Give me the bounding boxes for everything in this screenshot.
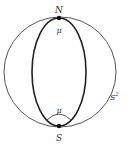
sphere-label-superscript: 2: [114, 91, 118, 97]
north-label: N: [54, 5, 64, 15]
north-angle-label: μ: [56, 26, 61, 35]
south-angle-label: μ: [56, 106, 61, 115]
south-label: S: [56, 133, 62, 143]
sphere-diagram: N μ μ S S2: [0, 0, 127, 146]
south-pole-point: [57, 124, 61, 128]
north-pole-point: [57, 16, 61, 20]
sphere-label: S2: [110, 91, 119, 102]
